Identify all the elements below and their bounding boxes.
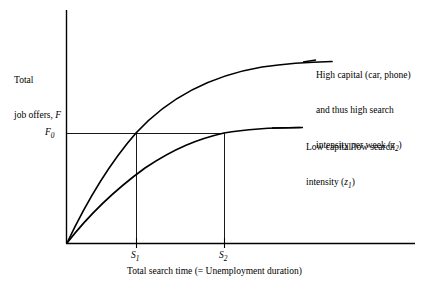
economics-figure: Total job offers, F F0 S1 S2 Total searc… — [0, 0, 426, 285]
annotation-low-capital: Low capital/low search intensity (z1) — [306, 119, 395, 213]
leader-line-low-capital — [272, 128, 303, 129]
annotation-low-capital-line1: Low capital/low search — [306, 142, 395, 154]
s1-axis-label: S1 — [131, 250, 139, 263]
curve-high-capital-z2 — [67, 62, 332, 244]
f0-axis-label: F0 — [45, 127, 55, 140]
curve-low-capital-z1 — [67, 128, 300, 244]
annotation-high-capital-line2: and thus high search — [316, 105, 411, 117]
annotation-high-capital-line3-suffix: ) — [399, 140, 402, 150]
s2-subscript: 2 — [224, 254, 228, 263]
annotation-low-capital-line2-prefix: intensity ( — [306, 177, 344, 187]
x-axis-title: Total search time (= Unemployment durati… — [127, 266, 302, 278]
y-axis-title-line2: job offers, F — [14, 110, 61, 122]
f0-subscript: 0 — [51, 131, 55, 140]
y-axis-title-line2-text: job offers, F — [14, 110, 61, 120]
y-axis-title-line1: Total — [14, 75, 61, 87]
s2-axis-label: S2 — [219, 250, 227, 263]
annotation-low-capital-line2-suffix: ) — [352, 177, 355, 187]
annotation-high-capital-line1: High capital (car, phone) — [316, 70, 411, 82]
annotation-low-capital-line2: intensity (z1) — [306, 177, 395, 190]
s1-subscript: 1 — [136, 254, 140, 263]
